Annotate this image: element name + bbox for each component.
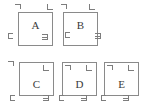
- corner-bottom-right-icon: [42, 34, 48, 40]
- corner-bottom-left-icon: [59, 95, 65, 101]
- box-label-e: E: [105, 79, 138, 90]
- corner-top-right-icon: [47, 4, 53, 10]
- corner-bottom-left-icon: [65, 32, 71, 38]
- figure-canvas: ABCDE: [0, 0, 148, 110]
- box-a[interactable]: A: [18, 12, 53, 46]
- corner-top-right-icon: [89, 4, 95, 10]
- corner-top-left-icon: [107, 65, 113, 71]
- corner-top-right-icon: [86, 65, 92, 71]
- corner-bottom-right-icon: [95, 33, 101, 39]
- corner-bottom-right-icon: [43, 95, 49, 101]
- box-label-d: D: [63, 79, 96, 90]
- box-label-a: A: [19, 20, 52, 31]
- corner-bottom-left-icon: [8, 33, 14, 39]
- corner-bottom-right-icon: [81, 95, 87, 101]
- corner-bottom-left-icon: [101, 95, 107, 101]
- corner-top-right-icon: [43, 65, 49, 71]
- corner-top-left-icon: [61, 4, 67, 10]
- corner-bottom-left-icon: [10, 95, 16, 101]
- box-label-c: C: [20, 79, 53, 90]
- corner-top-left-icon: [8, 61, 14, 67]
- box-label-b: B: [64, 20, 97, 31]
- box-b[interactable]: B: [63, 12, 98, 46]
- corner-bottom-right-icon: [123, 95, 129, 101]
- corner-top-left-icon: [65, 65, 71, 71]
- corner-top-left-icon: [15, 4, 21, 10]
- corner-top-right-icon: [128, 65, 134, 71]
